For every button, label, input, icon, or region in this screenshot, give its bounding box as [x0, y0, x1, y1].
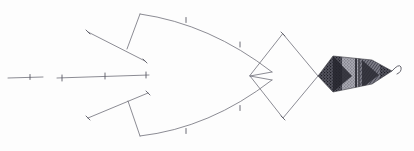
- tail-texture-fills: [316, 50, 396, 98]
- textured-tail-group: [316, 50, 401, 98]
- notch-upper-edge: [250, 72, 272, 76]
- lower-strut-diagonal: [88, 93, 148, 118]
- lower-strut-tip-tick: [146, 91, 150, 95]
- upper-strut-end-tick: [86, 30, 90, 34]
- short-guide-line: [8, 77, 43, 78]
- long-guide-line: [57, 75, 149, 78]
- upper-strut-tip-tick: [143, 59, 147, 63]
- notch-lower-edge: [250, 76, 272, 80]
- upper-strut-vertical: [127, 14, 140, 49]
- lower-strut-vertical: [128, 101, 140, 136]
- tail-hook-tip: [392, 66, 401, 74]
- upper-wing-arc: [140, 14, 272, 72]
- lower-strut-end-tick: [86, 116, 90, 120]
- tail-segment-4: [380, 50, 396, 98]
- line-drawing-figure: [0, 0, 414, 151]
- center-diamond: [250, 34, 318, 118]
- figure-canvas: [0, 0, 414, 151]
- upper-strut-diagonal: [88, 32, 145, 61]
- lower-strut-group: [86, 91, 150, 136]
- upper-strut-group: [86, 14, 147, 63]
- guide-lines-group: [8, 72, 149, 81]
- wing-arcs-group: [140, 14, 272, 136]
- lower-wing-arc: [140, 80, 272, 136]
- arc-notch-group: [250, 72, 272, 80]
